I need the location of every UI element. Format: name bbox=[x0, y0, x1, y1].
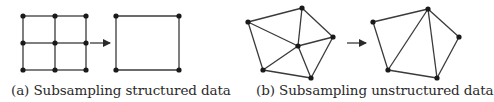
mesh-edge bbox=[263, 70, 311, 78]
caption-structured: (a) Subsampling structured data bbox=[11, 82, 231, 98]
mesh-edge bbox=[302, 8, 333, 37]
mesh-edge bbox=[298, 46, 311, 78]
mesh-node bbox=[20, 13, 25, 18]
mesh-node bbox=[245, 19, 250, 24]
mesh-edge bbox=[248, 22, 263, 70]
mesh-node bbox=[176, 67, 181, 72]
mesh-edge bbox=[373, 9, 428, 22]
panel-unstructured bbox=[245, 5, 461, 80]
mesh-node bbox=[308, 75, 313, 80]
mesh-node bbox=[176, 13, 181, 18]
mesh-node bbox=[20, 67, 25, 72]
mesh-edge bbox=[388, 70, 437, 78]
mesh-node bbox=[260, 67, 265, 72]
mesh-node bbox=[113, 13, 118, 18]
mesh-node bbox=[83, 67, 88, 72]
unstructured-mesh-original bbox=[245, 5, 335, 80]
mesh-node bbox=[370, 19, 375, 24]
mesh-node bbox=[113, 67, 118, 72]
mesh-node bbox=[425, 6, 430, 11]
mesh-edge bbox=[428, 9, 459, 37]
mesh-edge bbox=[248, 22, 298, 46]
mesh-edge bbox=[428, 9, 437, 78]
mesh-node bbox=[52, 67, 57, 72]
mesh-edge bbox=[263, 46, 298, 70]
mesh-edge bbox=[298, 37, 333, 46]
mesh-node bbox=[385, 67, 390, 72]
mesh-node bbox=[52, 13, 57, 18]
mesh-edge bbox=[248, 8, 302, 22]
mesh-node bbox=[83, 13, 88, 18]
unstructured-mesh-subsampled bbox=[370, 6, 461, 80]
mesh-edge bbox=[311, 37, 333, 78]
mesh-node bbox=[456, 34, 461, 39]
mesh-node bbox=[52, 40, 57, 45]
panel-structured bbox=[20, 13, 181, 72]
mesh-node bbox=[295, 43, 300, 48]
structured-grid-original bbox=[20, 13, 88, 72]
mesh-node bbox=[83, 40, 88, 45]
mesh-edge bbox=[373, 22, 388, 70]
mesh-edge bbox=[388, 9, 428, 70]
mesh-edge bbox=[298, 8, 302, 46]
caption-unstructured: (b) Subsampling unstructured data bbox=[256, 82, 494, 98]
mesh-node bbox=[330, 34, 335, 39]
mesh-node bbox=[434, 75, 439, 80]
mesh-edge bbox=[437, 37, 459, 78]
structured-grid-subsampled bbox=[113, 13, 181, 72]
mesh-node bbox=[20, 40, 25, 45]
mesh-node bbox=[299, 5, 304, 10]
